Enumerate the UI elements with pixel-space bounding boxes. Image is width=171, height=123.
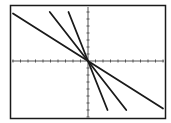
graph-window [0,0,171,123]
